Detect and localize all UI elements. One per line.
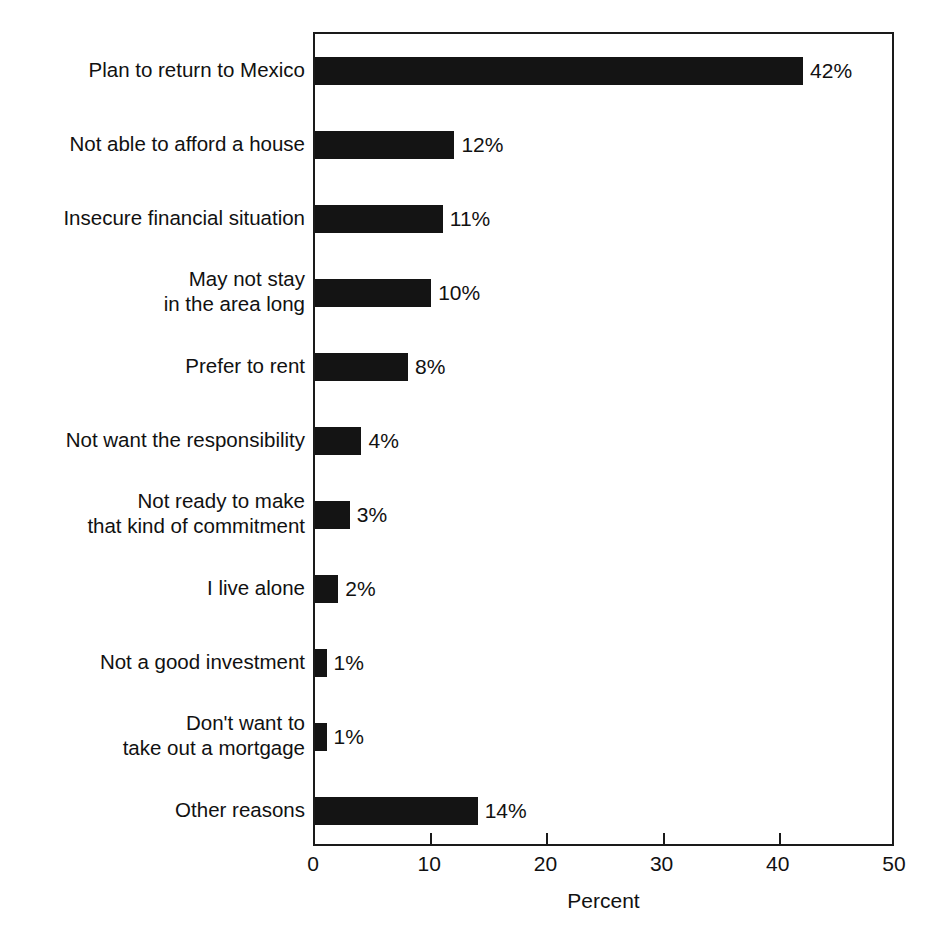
category-label: Prefer to rent	[0, 353, 305, 378]
bar-value-label: 8%	[415, 353, 445, 381]
category-label: Other reasons	[0, 797, 305, 822]
bar	[315, 427, 361, 455]
bar	[315, 353, 408, 381]
bar-value-label: 12%	[461, 131, 503, 159]
x-axis-title: Percent	[313, 889, 894, 913]
x-axis-tick	[546, 833, 548, 844]
bar-value-label: 3%	[357, 501, 387, 529]
x-axis-tick-label: 50	[864, 852, 924, 876]
x-axis-tick-label: 10	[399, 852, 459, 876]
bar-value-label: 42%	[810, 57, 852, 85]
category-label: Insecure financial situation	[0, 205, 305, 230]
bar	[315, 797, 478, 825]
category-label: Not a good investment	[0, 649, 305, 674]
x-axis-tick-label: 40	[748, 852, 808, 876]
bar-value-label: 14%	[485, 797, 527, 825]
category-label: Don't want to take out a mortgage	[0, 710, 305, 760]
x-axis-tick	[663, 833, 665, 844]
bar-value-label: 2%	[345, 575, 375, 603]
category-label: May not stay in the area long	[0, 266, 305, 316]
bar	[315, 501, 350, 529]
bar-value-label: 4%	[368, 427, 398, 455]
category-label: Not ready to make that kind of commitmen…	[0, 488, 305, 538]
figure-container: Plan to return to MexicoNot able to affo…	[0, 0, 925, 926]
bar	[315, 723, 327, 751]
category-label: I live alone	[0, 575, 305, 600]
bar-value-label: 11%	[450, 205, 490, 233]
bar	[315, 575, 338, 603]
figure-caption-remnant	[34, 0, 654, 2]
bar-value-label: 1%	[334, 723, 364, 751]
plot-area: 42%12%11%10%8%4%3%2%1%1%14%	[315, 34, 892, 844]
x-axis-tick-label: 30	[632, 852, 692, 876]
category-label-column: Plan to return to MexicoNot able to affo…	[0, 32, 305, 846]
bar-value-label: 10%	[438, 279, 480, 307]
category-label: Not want the responsibility	[0, 427, 305, 452]
category-label: Not able to afford a house	[0, 131, 305, 156]
x-axis-tick	[430, 833, 432, 844]
x-axis-tick-label: 0	[283, 852, 343, 876]
bar	[315, 57, 803, 85]
bar-value-label: 1%	[334, 649, 364, 677]
x-axis-tick	[779, 833, 781, 844]
bar	[315, 205, 443, 233]
bar	[315, 649, 327, 677]
plot-frame: 42%12%11%10%8%4%3%2%1%1%14%	[313, 32, 894, 846]
x-axis-tick-label: 20	[515, 852, 575, 876]
bar	[315, 131, 454, 159]
bar	[315, 279, 431, 307]
category-label: Plan to return to Mexico	[0, 57, 305, 82]
